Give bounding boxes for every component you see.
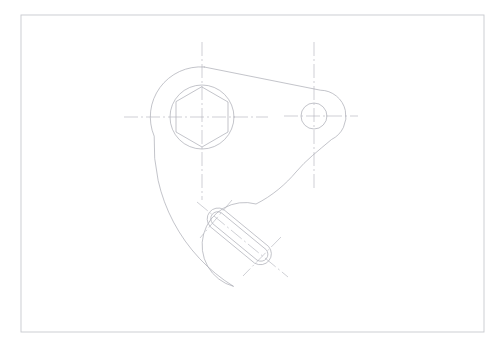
- centerline-group: [124, 42, 358, 277]
- drawing-frame: [21, 15, 484, 332]
- slot-end-a-cross: [200, 200, 232, 238]
- slot-end-b-cross: [243, 237, 281, 276]
- part-outline-group: [150, 67, 346, 287]
- drawing-canvas: [0, 0, 504, 346]
- slot-axis: [197, 202, 288, 277]
- cad-drawing-svg: [0, 0, 504, 346]
- slot-outer-path: [207, 208, 271, 265]
